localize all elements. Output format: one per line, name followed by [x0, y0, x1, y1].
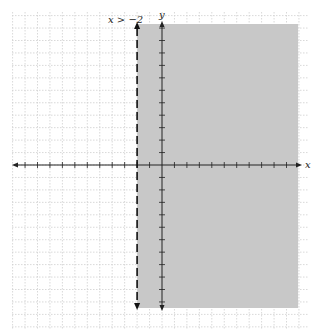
coordinate-plane: x > −2 y x — [0, 0, 319, 336]
y-axis-label: y — [158, 9, 165, 20]
x-axis-label: x — [305, 159, 311, 170]
inequality-label: x > −2 — [108, 14, 143, 25]
